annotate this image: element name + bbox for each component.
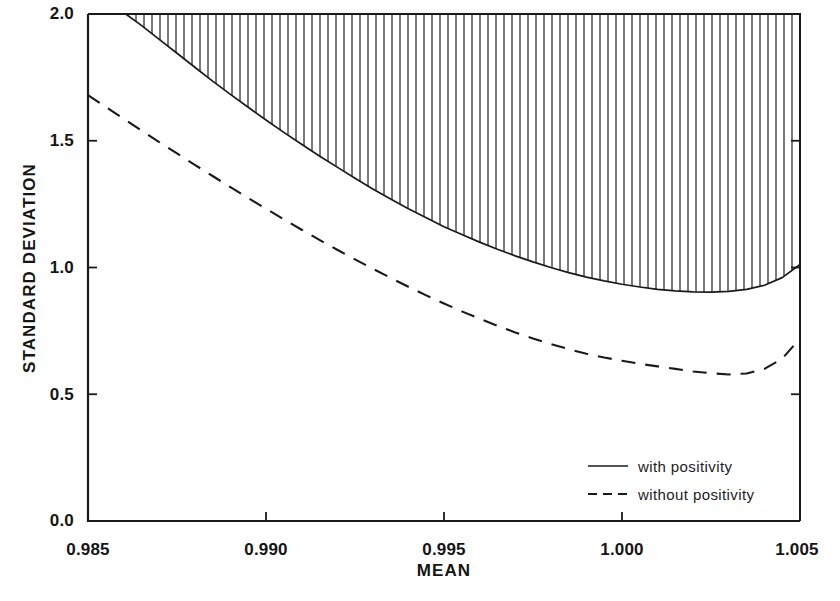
y-axis-ticks	[88, 14, 800, 521]
legend-label-without-positivity: without positivity	[638, 486, 754, 503]
x-tick-label-0_990: 0.990	[244, 540, 288, 560]
series-line-without-positivity	[88, 95, 800, 374]
x-axis-ticks	[88, 512, 800, 521]
y-axis-title: STANDARD DEVIATION	[20, 163, 40, 373]
hatched-region	[88, 14, 800, 521]
series-line-with-positivity	[126, 14, 800, 292]
chart-figure: 2.0 1.5 1.0 0.5 0.0 0.985 0.990 0.995 1.…	[0, 0, 840, 601]
x-tick-label-0_995: 0.995	[422, 540, 466, 560]
x-tick-label-1_000: 1.000	[600, 540, 644, 560]
legend-label-with-positivity: with positivity	[638, 458, 732, 475]
y-tick-label-0: 0.0	[14, 511, 74, 531]
y-tick-label-0_5: 0.5	[14, 385, 74, 405]
x-axis-title: MEAN	[417, 561, 471, 581]
legend-sample-lines	[588, 466, 628, 494]
x-tick-label-1_005: 1.005	[775, 540, 819, 560]
plot-canvas	[0, 0, 840, 601]
y-tick-label-1_5: 1.5	[14, 131, 74, 151]
axis-spines	[88, 14, 800, 521]
y-tick-label-2: 2.0	[14, 4, 74, 24]
axis-frame	[88, 14, 800, 521]
x-tick-label-0_985: 0.985	[66, 540, 110, 560]
